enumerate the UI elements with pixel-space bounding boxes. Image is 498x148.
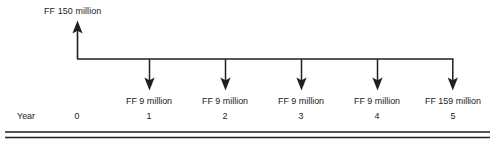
period-amount-label-1: FF 9 million	[126, 95, 172, 107]
year-tick-label-4: 4	[375, 110, 380, 122]
year-tick-label-1: 1	[147, 110, 152, 122]
period-amount-label-2: FF 9 million	[202, 95, 248, 107]
year-tick-label-0: 0	[75, 110, 80, 122]
year-tick-label-2: 2	[223, 110, 228, 122]
period-amount-label-5: FF 159 million	[425, 95, 481, 107]
year-tick-label-3: 3	[299, 110, 304, 122]
year-axis-caption: Year	[17, 110, 35, 122]
period-amount-label-3: FF 9 million	[278, 95, 324, 107]
cash-flow-timeline-diagram: FF 150 million	[0, 0, 498, 148]
period-amount-label-4: FF 9 million	[354, 95, 400, 107]
year-tick-label-5: 5	[451, 110, 456, 122]
timeline-linework	[0, 0, 498, 148]
